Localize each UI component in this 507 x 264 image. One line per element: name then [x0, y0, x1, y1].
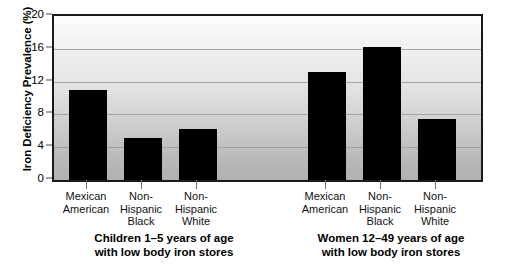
- gridline-12: [54, 82, 481, 83]
- x-tick-mark-3: [325, 180, 326, 189]
- group-caption-line2: with low body iron stores: [278, 246, 504, 260]
- x-category-line1: Non-: [157, 190, 235, 203]
- bar-women-non-hispanic-white: [418, 119, 456, 180]
- x-category-label-children-non-hispanic-white: Non- Hispanic White: [157, 190, 235, 228]
- group-caption-women: Women 12–49 years of age with low body i…: [278, 232, 504, 259]
- y-tick-label-16: 16: [20, 41, 44, 53]
- x-category-line3: White: [396, 215, 474, 228]
- group-caption-line2: with low body iron stores: [48, 246, 280, 260]
- y-axis-tick-labels: 20 16 12 8 4 0: [22, 0, 44, 264]
- x-category-label-women-non-hispanic-white: Non- Hispanic White: [396, 190, 474, 228]
- plot-area: [52, 14, 483, 182]
- bar-children-mexican-american: [69, 90, 107, 180]
- x-tick-mark-1: [141, 180, 142, 189]
- x-tick-mark-4: [380, 180, 381, 189]
- gridline-16: [54, 49, 481, 50]
- gridline-4: [54, 147, 481, 148]
- x-tick-mark-5: [435, 180, 436, 189]
- group-caption-line1: Children 1–5 years of age: [48, 232, 280, 246]
- x-category-line1: Non-: [396, 190, 474, 203]
- x-category-line3: White: [157, 215, 235, 228]
- bar-women-mexican-american: [308, 72, 346, 180]
- bar-chart-figure: Iron Deficiency Prevalence (%) 20 16 12 …: [0, 0, 507, 264]
- x-tick-mark-2: [196, 180, 197, 189]
- bar-women-non-hispanic-black: [363, 47, 401, 180]
- y-tick-label-20: 20: [20, 8, 44, 20]
- y-tick-label-0: 0: [20, 172, 44, 184]
- x-tick-mark-0: [86, 180, 87, 189]
- group-caption-line1: Women 12–49 years of age: [278, 232, 504, 246]
- y-tick-label-12: 12: [20, 74, 44, 86]
- x-category-line2: Hispanic: [396, 203, 474, 216]
- bar-children-non-hispanic-white: [179, 129, 217, 180]
- gridline-8: [54, 114, 481, 115]
- y-tick-label-8: 8: [20, 106, 44, 118]
- group-caption-children: Children 1–5 years of age with low body …: [48, 232, 280, 259]
- bar-children-non-hispanic-black: [124, 138, 162, 180]
- y-tick-label-4: 4: [20, 139, 44, 151]
- x-category-line2: Hispanic: [157, 203, 235, 216]
